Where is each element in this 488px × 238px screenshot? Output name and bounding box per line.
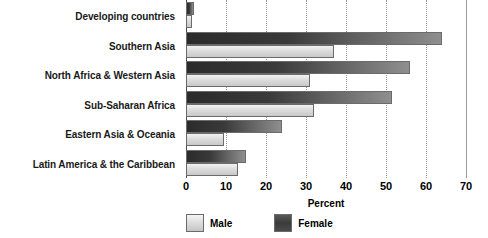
bar-male-1	[186, 45, 334, 58]
x-tick-label-50: 50	[380, 180, 392, 192]
x-tick-label-60: 60	[420, 180, 432, 192]
x-tick-label-10: 10	[220, 180, 232, 192]
category-label-4: Eastern Asia & Oceania	[65, 129, 175, 140]
gridline-70	[466, 0, 467, 178]
x-tick-label-40: 40	[340, 180, 352, 192]
gridline-60	[426, 0, 427, 178]
category-label-1: Southern Asia	[109, 41, 175, 52]
chart-legend: Male Female	[186, 214, 333, 232]
bar-male-4	[186, 133, 224, 146]
legend-label-female: Female	[298, 218, 332, 229]
gridline-40	[346, 0, 347, 178]
bar-female-1	[186, 32, 442, 45]
category-label-2: North Africa & Western Asia	[45, 70, 175, 81]
gridline-20	[266, 0, 267, 178]
legend-label-male: Male	[210, 218, 232, 229]
legend-item-female: Female	[274, 214, 332, 232]
bar-female-0	[186, 2, 194, 15]
x-tick-label-70: 70	[460, 180, 472, 192]
gridline-30	[306, 0, 307, 178]
category-label-5: Latin America & the Caribbean	[33, 159, 175, 170]
gridline-50	[386, 0, 387, 178]
bar-female-5	[186, 150, 246, 163]
grouped-bar-chart: Developing countriesSouthern AsiaNorth A…	[0, 0, 488, 238]
x-tick-label-0: 0	[183, 180, 189, 192]
male-swatch-icon	[186, 214, 204, 232]
bar-male-3	[186, 104, 314, 117]
bar-female-2	[186, 61, 410, 74]
bar-male-0	[186, 15, 192, 28]
x-tick-label-30: 30	[300, 180, 312, 192]
category-label-0: Developing countries	[75, 11, 175, 22]
category-label-3: Sub-Saharan Africa	[84, 100, 175, 111]
female-swatch-icon	[274, 214, 292, 232]
bar-male-2	[186, 74, 310, 87]
bar-male-5	[186, 163, 238, 176]
bar-female-3	[186, 91, 392, 104]
x-tick-label-20: 20	[260, 180, 272, 192]
category-axis-labels: Developing countriesSouthern AsiaNorth A…	[0, 0, 181, 180]
legend-item-male: Male	[186, 214, 232, 232]
plot-area	[186, 0, 466, 178]
x-axis-title: Percent	[186, 198, 466, 209]
bar-female-4	[186, 120, 282, 133]
